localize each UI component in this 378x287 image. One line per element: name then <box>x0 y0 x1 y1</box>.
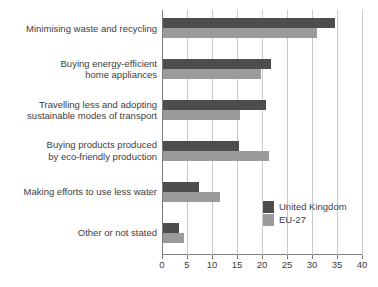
gridline-5 <box>187 10 188 255</box>
x-tick-label: 30 <box>307 259 318 270</box>
category-label: Making efforts to use less water <box>0 186 157 198</box>
category-label: Minimising waste and recycling <box>0 23 157 35</box>
bar <box>163 28 317 38</box>
x-tick-label: 20 <box>257 259 268 270</box>
bar <box>163 141 239 151</box>
bar <box>163 223 179 233</box>
legend-label: EU-27 <box>279 214 306 225</box>
category-label: Buying products produced by eco-friendly… <box>0 139 157 162</box>
bar <box>163 233 184 243</box>
category-label: Other or not stated <box>0 227 157 239</box>
x-tick-label: 40 <box>357 259 368 270</box>
y-axis-line <box>162 10 163 255</box>
legend-item: EU-27 <box>263 213 347 226</box>
x-tick-label: 10 <box>207 259 218 270</box>
legend-swatch-icon <box>263 201 274 213</box>
bar-chart: Minimising waste and recyclingBuying ene… <box>0 0 378 287</box>
chart-legend: United KingdomEU-27 <box>263 200 347 226</box>
bar <box>163 100 266 110</box>
category-label: Buying energy-efficient home appliances <box>0 58 157 81</box>
legend-label: United Kingdom <box>279 201 347 212</box>
x-tick-label: 15 <box>232 259 243 270</box>
x-tick-label: 5 <box>184 259 189 270</box>
category-label-column: Minimising waste and recyclingBuying ene… <box>0 10 157 255</box>
bar <box>163 151 269 161</box>
gridline-40 <box>362 10 363 255</box>
gridline-15 <box>237 10 238 255</box>
x-axis-tick-row: 0510152025303540 <box>0 258 378 274</box>
bar <box>163 192 220 202</box>
bar <box>163 182 199 192</box>
x-tick-label: 0 <box>159 259 164 270</box>
legend-item: United Kingdom <box>263 200 347 213</box>
bar <box>163 110 240 120</box>
x-tick-label: 25 <box>282 259 293 270</box>
legend-swatch-icon <box>263 214 274 226</box>
category-label: Travelling less and adopting sustainable… <box>0 99 157 122</box>
x-tick-label: 35 <box>332 259 343 270</box>
bar <box>163 18 335 28</box>
bar <box>163 69 261 79</box>
gridline-10 <box>212 10 213 255</box>
bar <box>163 59 271 69</box>
